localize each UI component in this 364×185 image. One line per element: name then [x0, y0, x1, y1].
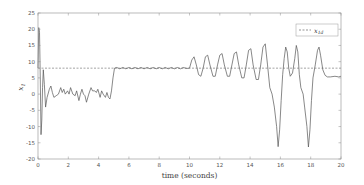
- y-tick-label: 25: [28, 10, 35, 16]
- y-tick-label: 20: [28, 26, 35, 32]
- x-tick-label: 0: [36, 162, 40, 168]
- y-tick-label: 0: [32, 91, 36, 97]
- y-tick-label: -20: [26, 156, 35, 162]
- x-tick-label: 6: [127, 162, 131, 168]
- legend: x1d: [296, 24, 338, 36]
- y-tick-label: 10: [28, 59, 35, 65]
- y-axis-label-sub: 1: [20, 83, 26, 86]
- x-tick-label: 20: [338, 162, 345, 168]
- line-chart: 02468101214161820-20-15-10-50510152025 t…: [0, 0, 364, 185]
- x-tick-label: 4: [97, 162, 101, 168]
- x-tick-label: 12: [216, 162, 223, 168]
- x-tick-label: 18: [307, 162, 314, 168]
- x-tick-label: 10: [186, 162, 193, 168]
- x-tick-label: 2: [67, 162, 71, 168]
- x-tick-label: 16: [277, 162, 284, 168]
- y-tick-label: 15: [28, 42, 35, 48]
- y-tick-label: 5: [32, 75, 36, 81]
- y-tick-label: -15: [26, 140, 35, 146]
- y-tick-label: -10: [26, 124, 35, 130]
- x-axis-label: time (seconds): [162, 171, 218, 180]
- x-tick-label: 8: [157, 162, 161, 168]
- x-tick-label: 14: [247, 162, 254, 168]
- y-tick-label: -5: [30, 107, 36, 113]
